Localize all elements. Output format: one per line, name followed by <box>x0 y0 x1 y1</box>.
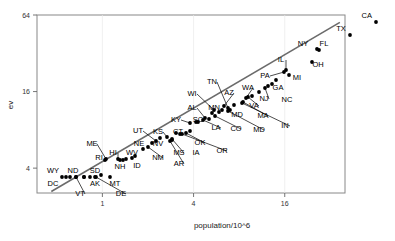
state-label: KY <box>171 115 181 124</box>
state-label: IL <box>278 55 284 64</box>
data-point <box>250 94 254 98</box>
state-label: MS <box>173 148 184 157</box>
state-label: FL <box>320 39 329 48</box>
y-tick-label: 16 <box>22 88 30 95</box>
data-point <box>68 175 72 179</box>
state-label: KS <box>153 127 163 136</box>
chart-root: 141641664 CATXNYFLOHILPAMIGANCNJWAVAAZMA… <box>0 0 395 241</box>
state-label: NH <box>115 162 126 171</box>
state-label: AK <box>90 179 100 188</box>
state-label: RI <box>95 153 103 162</box>
x-axis-title: population/10^6 <box>194 221 251 230</box>
state-label: CT <box>173 127 183 136</box>
state-label: LA <box>211 123 220 132</box>
data-point <box>188 129 192 133</box>
state-label: HI <box>109 148 117 157</box>
state-label: SD <box>90 166 101 175</box>
state-label: VT <box>75 189 85 198</box>
state-label: SC <box>193 115 204 124</box>
y-tick-label: 4 <box>26 165 30 172</box>
state-label: MD <box>231 110 243 119</box>
state-label: ND <box>68 166 79 175</box>
state-label: IN <box>281 121 289 130</box>
state-label: ID <box>133 161 141 170</box>
label-leader-line <box>270 72 284 76</box>
state-label: OH <box>312 60 323 69</box>
state-label: CO <box>230 124 241 133</box>
state-label: NV <box>153 139 163 148</box>
data-point <box>220 108 224 112</box>
state-label: MN <box>208 103 220 112</box>
y-tick-label: 64 <box>22 12 30 19</box>
data-point <box>232 103 236 107</box>
state-label: MD <box>253 125 265 134</box>
state-label: DE <box>116 189 126 198</box>
state-label: NY <box>298 39 308 48</box>
state-label: CA <box>362 11 372 20</box>
state-label: AR <box>174 159 185 168</box>
data-point <box>374 20 378 24</box>
state-label: GA <box>273 83 284 92</box>
state-label: IA <box>192 148 199 157</box>
data-point <box>82 175 86 179</box>
state-label: TX <box>336 24 346 33</box>
state-label: OR <box>216 146 228 155</box>
state-label: TN <box>207 77 217 86</box>
x-tick-label: 16 <box>281 200 289 207</box>
x-tick-label: 4 <box>192 200 196 207</box>
data-point <box>64 175 68 179</box>
state-label: MI <box>293 73 301 82</box>
state-label: UT <box>133 126 143 135</box>
state-label: WV <box>126 148 138 157</box>
state-label: WA <box>242 83 254 92</box>
data-point <box>287 73 291 77</box>
data-point <box>317 48 321 52</box>
y-axis-title: ev <box>6 101 15 109</box>
label-leader-line <box>181 120 190 123</box>
state-label: DC <box>48 179 59 188</box>
state-label: MA <box>257 111 268 120</box>
data-point <box>348 33 352 37</box>
state-label: WY <box>47 166 59 175</box>
label-leader-line <box>163 132 167 137</box>
state-label: AZ <box>224 88 234 97</box>
data-point <box>274 78 278 82</box>
data-point <box>103 158 107 162</box>
state-label: NM <box>152 153 164 162</box>
data-point <box>124 157 128 161</box>
state-label: AL <box>187 103 196 112</box>
state-label: ME <box>86 139 97 148</box>
data-point <box>207 117 211 121</box>
state-label: MT <box>110 179 121 188</box>
state-label: PA <box>260 71 269 80</box>
data-point <box>60 175 64 179</box>
state-label: NJ <box>259 94 268 103</box>
x-tick-label: 1 <box>100 200 104 207</box>
state-label: NE <box>134 139 144 148</box>
state-label: NC <box>282 95 293 104</box>
state-label: WI <box>187 89 196 98</box>
state-label: VA <box>249 101 258 110</box>
scatter-plot: 141641664 CATXNYFLOHILPAMIGANCNJWAVAAZMA… <box>0 0 395 241</box>
state-label: OK <box>195 138 206 147</box>
